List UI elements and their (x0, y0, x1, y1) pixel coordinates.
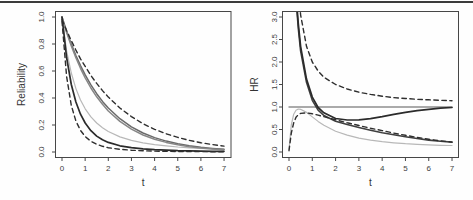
x-tick-label: 0 (287, 164, 292, 173)
x-tick-label: 6 (199, 164, 204, 173)
x-tick-label: 5 (176, 164, 181, 173)
figure: 012345670.00.20.40.60.81.0tReliability 0… (0, 0, 473, 200)
y-tick-label: 0.0 (37, 146, 46, 158)
series-light-gray-curve (289, 109, 452, 149)
page: 012345670.00.20.40.60.81.0tReliability 0… (0, 0, 473, 200)
series-ci-upper-dashed (289, 0, 452, 101)
x-tick-label: 0 (60, 164, 65, 173)
x-tick-label: 4 (380, 164, 385, 173)
x-tick-label: 4 (152, 164, 157, 173)
reliability-plot: 012345670.00.20.40.60.81.0tReliability (0, 0, 236, 200)
y-tick-label: 2.5 (270, 33, 279, 45)
y-axis-label: HR (249, 77, 260, 91)
x-tick-label: 7 (450, 164, 455, 173)
series-fit-gray-1 (62, 17, 224, 149)
x-tick-label: 1 (83, 164, 88, 173)
x-axis-label: t (142, 177, 145, 188)
x-tick-label: 7 (222, 164, 227, 173)
series-ci-lower-dashed (62, 21, 224, 152)
x-tick-label: 1 (310, 164, 315, 173)
y-tick-label: 0.5 (270, 123, 279, 135)
y-tick-label: 1.5 (270, 78, 279, 90)
series-fit-black (62, 17, 224, 151)
x-tick-label: 6 (427, 164, 432, 173)
x-tick-label: 2 (106, 164, 111, 173)
y-tick-label: 0.8 (37, 38, 46, 50)
y-tick-label: 0.0 (270, 146, 279, 158)
series-group (62, 17, 224, 152)
x-tick-label: 2 (333, 164, 338, 173)
series-fit-gray-2 (62, 17, 224, 150)
x-axis-label: t (369, 177, 372, 188)
hr-plot: 012345670.00.51.01.52.02.53.0tHR (236, 0, 473, 200)
series-km-curve-light (62, 17, 224, 149)
series-hr-declining-curve (289, 0, 452, 142)
x-tick-label: 3 (357, 164, 362, 173)
y-tick-label: 1.0 (270, 101, 279, 113)
y-axis-label: Reliability (16, 63, 27, 106)
y-tick-label: 0.6 (37, 65, 46, 77)
y-tick-label: 0.4 (37, 92, 46, 104)
y-tick-label: 1.0 (37, 11, 46, 23)
x-tick-label: 5 (403, 164, 408, 173)
series-ci-upper-dashed (62, 20, 224, 146)
series-group (289, 0, 452, 151)
y-tick-label: 3.0 (270, 11, 279, 23)
x-tick-label: 3 (129, 164, 134, 173)
y-tick-label: 2.0 (270, 56, 279, 68)
y-tick-label: 0.2 (37, 119, 46, 131)
